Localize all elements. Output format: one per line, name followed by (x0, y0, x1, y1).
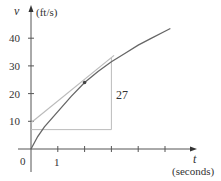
velocity-curve (31, 29, 170, 149)
x-axis-arrow-icon (190, 147, 197, 152)
y-axis-unit-label: (ft/s) (36, 6, 58, 19)
origin-label: 0 (20, 155, 26, 167)
y-tick-label: 30 (9, 60, 21, 72)
y-tick-label: 40 (9, 32, 21, 44)
rise-label: 27 (116, 88, 128, 102)
y-ticks: 10203040 (9, 32, 34, 127)
y-axis-var-label: v (14, 4, 20, 18)
y-axis-arrow-icon (29, 5, 34, 12)
slope-triangle (31, 58, 111, 130)
tangent-line (31, 55, 114, 122)
tangent-point (83, 81, 87, 85)
x-axis-var-label: t (193, 152, 197, 166)
y-tick-label: 10 (9, 115, 21, 127)
x-tick-label-1: 1 (54, 156, 60, 168)
x-axis-unit-label: (seconds) (172, 165, 214, 178)
velocity-chart: 10203040 v (ft/s) t (seconds) 0 1 27 (0, 0, 221, 181)
x-axis (18, 147, 197, 152)
y-tick-label: 20 (9, 88, 21, 100)
